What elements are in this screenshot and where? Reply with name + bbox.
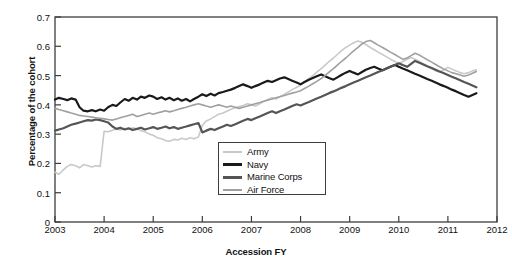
y-tick-label: 0.5: [37, 70, 50, 81]
legend-item-marine-corps: Marine Corps: [223, 171, 325, 183]
y-tick-label: 0.3: [37, 129, 50, 140]
x-tick-label: 2009: [339, 224, 360, 235]
x-tick-label: 2007: [241, 224, 262, 235]
x-tick-label: 2008: [290, 224, 311, 235]
legend-swatch-marine-corps: [223, 176, 242, 179]
x-tick-label: 2004: [94, 224, 115, 235]
y-axis-label: Percentage of the cohort: [26, 17, 37, 207]
x-tick-label: 2011: [438, 224, 458, 235]
chart-figure: 00.10.20.30.40.50.60.7 20032004200520062…: [0, 0, 512, 267]
x-tick-label: 2005: [143, 224, 164, 235]
y-tick-label: 0.1: [37, 187, 50, 198]
y-tick-label: 0.4: [37, 99, 50, 110]
legend-swatch-air-force: [223, 189, 242, 191]
x-axis-label: Accession FY: [0, 246, 512, 257]
legend-label-air-force: Air Force: [247, 184, 284, 196]
x-axis-ticks: 2003200420052006200720082009201020112012: [0, 224, 512, 244]
x-tick-label: 2012: [486, 224, 507, 235]
legend-item-army: Army: [223, 146, 325, 158]
legend-swatch-navy: [223, 163, 242, 166]
series-line-air-force: [55, 40, 476, 120]
x-tick-label: 2010: [388, 224, 409, 235]
y-tick-label: 0.6: [37, 41, 50, 52]
chart-legend: Army Navy Marine Corps Air Force: [218, 142, 326, 195]
series-line-marine-corps: [55, 61, 476, 132]
legend-label-navy: Navy: [247, 159, 268, 171]
legend-label-marine-corps: Marine Corps: [247, 171, 302, 183]
y-tick-label: 0.7: [37, 12, 50, 23]
x-tick-label: 2006: [192, 224, 213, 235]
legend-item-navy: Navy: [223, 159, 325, 171]
x-tick-label: 2003: [44, 224, 65, 235]
legend-swatch-army: [223, 151, 242, 153]
legend-label-army: Army: [247, 146, 269, 158]
series-line-navy: [55, 65, 476, 111]
legend-item-air-force: Air Force: [223, 184, 325, 196]
y-tick-label: 0.2: [37, 158, 50, 169]
